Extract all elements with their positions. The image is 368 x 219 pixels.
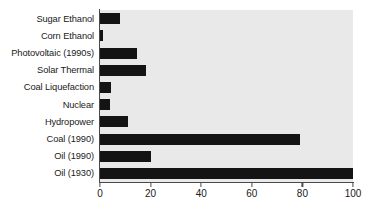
bar-row xyxy=(100,148,353,165)
category-label-sugar-ethanol: Sugar Ethanol xyxy=(36,14,94,24)
x-tick-40 xyxy=(201,183,202,187)
category-label-corn-ethanol: Corn Ethanol xyxy=(41,31,94,41)
y-axis-line xyxy=(99,9,100,183)
category-label-solar-thermal: Solar Thermal xyxy=(37,65,94,75)
x-tick-label-0: 0 xyxy=(97,188,103,199)
x-tick-60 xyxy=(251,183,252,187)
category-label-coal-1990: Coal (1990) xyxy=(47,134,94,144)
x-axis-tick-labels: 020406080100 xyxy=(100,188,353,204)
bar-coal-1990 xyxy=(100,134,300,145)
bar-row xyxy=(100,96,353,113)
category-label-row: Solar Thermal xyxy=(0,62,98,79)
bar-row xyxy=(100,130,353,147)
category-label-row: Sugar Ethanol xyxy=(0,10,98,27)
bar-row xyxy=(100,62,353,79)
x-tick-label-100: 100 xyxy=(345,188,362,199)
x-tick-label-80: 80 xyxy=(297,188,308,199)
category-label-row: Corn Ethanol xyxy=(0,27,98,44)
bar-row xyxy=(100,113,353,130)
category-label-photovoltaic: Photovoltaic (1990s) xyxy=(11,48,94,58)
category-label-oil-1930: Oil (1930) xyxy=(54,168,94,178)
bar-row xyxy=(100,10,353,27)
x-tick-label-60: 60 xyxy=(246,188,257,199)
bars-layer xyxy=(100,10,353,182)
bar-row xyxy=(100,79,353,96)
bar-oil-1930 xyxy=(100,168,353,179)
bar-coal-liquefaction xyxy=(100,82,111,93)
bar-row xyxy=(100,27,353,44)
category-label-row: Oil (1930) xyxy=(0,165,98,182)
category-label-row: Oil (1990) xyxy=(0,148,98,165)
plot-area xyxy=(100,10,353,182)
category-label-nuclear: Nuclear xyxy=(63,100,94,110)
x-tick-label-40: 40 xyxy=(196,188,207,199)
x-tick-0 xyxy=(99,183,100,187)
bar-solar-thermal xyxy=(100,65,146,76)
bar-row xyxy=(100,165,353,182)
category-label-row: Nuclear xyxy=(0,96,98,113)
category-label-oil-1990: Oil (1990) xyxy=(54,151,94,161)
category-label-hydropower: Hydropower xyxy=(45,117,94,127)
x-tick-20 xyxy=(150,183,151,187)
category-label-row: Coal Liquefaction xyxy=(0,79,98,96)
bar-hydropower xyxy=(100,116,128,127)
bar-oil-1990 xyxy=(100,151,151,162)
category-axis: Sugar Ethanol Corn Ethanol Photovoltaic … xyxy=(0,10,98,182)
category-label-row: Hydropower xyxy=(0,113,98,130)
x-tick-label-20: 20 xyxy=(145,188,156,199)
category-label-coal-liquefaction: Coal Liquefaction xyxy=(24,82,94,92)
category-label-row: Photovoltaic (1990s) xyxy=(0,44,98,61)
x-axis-ticks xyxy=(100,183,353,187)
x-tick-100 xyxy=(352,183,353,187)
bar-row xyxy=(100,44,353,61)
bar-nuclear xyxy=(100,99,110,110)
x-tick-80 xyxy=(302,183,303,187)
bar-chart-figure: Sugar Ethanol Corn Ethanol Photovoltaic … xyxy=(0,0,368,219)
category-label-row: Coal (1990) xyxy=(0,130,98,147)
bar-sugar-ethanol xyxy=(100,13,120,24)
bar-photovoltaic xyxy=(100,48,137,59)
